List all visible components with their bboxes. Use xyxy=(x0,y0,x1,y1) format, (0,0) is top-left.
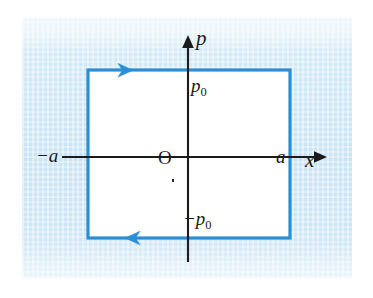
negative-a-sign: − xyxy=(36,145,49,166)
negative-a-value-label: −a xyxy=(36,146,58,165)
p-axis-arrowhead-icon xyxy=(182,35,194,48)
negative-p0-sign: − xyxy=(183,208,196,229)
x-axis-label: x xyxy=(305,150,314,171)
origin-label: O xyxy=(158,148,172,167)
a-value-label: a xyxy=(276,147,286,166)
figure-canvas: p p0 −p0 −a a x O xyxy=(0,0,373,298)
negative-p0-base: p xyxy=(196,208,206,229)
negative-p0-subscript: 0 xyxy=(205,218,211,232)
x-axis-arrowhead-icon xyxy=(314,151,327,163)
p0-base: p xyxy=(191,75,201,96)
print-speck xyxy=(172,179,174,182)
p-axis-label: p xyxy=(196,28,207,49)
p0-value-label: p0 xyxy=(191,76,207,98)
negative-a-base: a xyxy=(49,145,59,166)
p0-subscript: 0 xyxy=(201,85,207,99)
negative-p0-value-label: −p0 xyxy=(183,209,212,231)
